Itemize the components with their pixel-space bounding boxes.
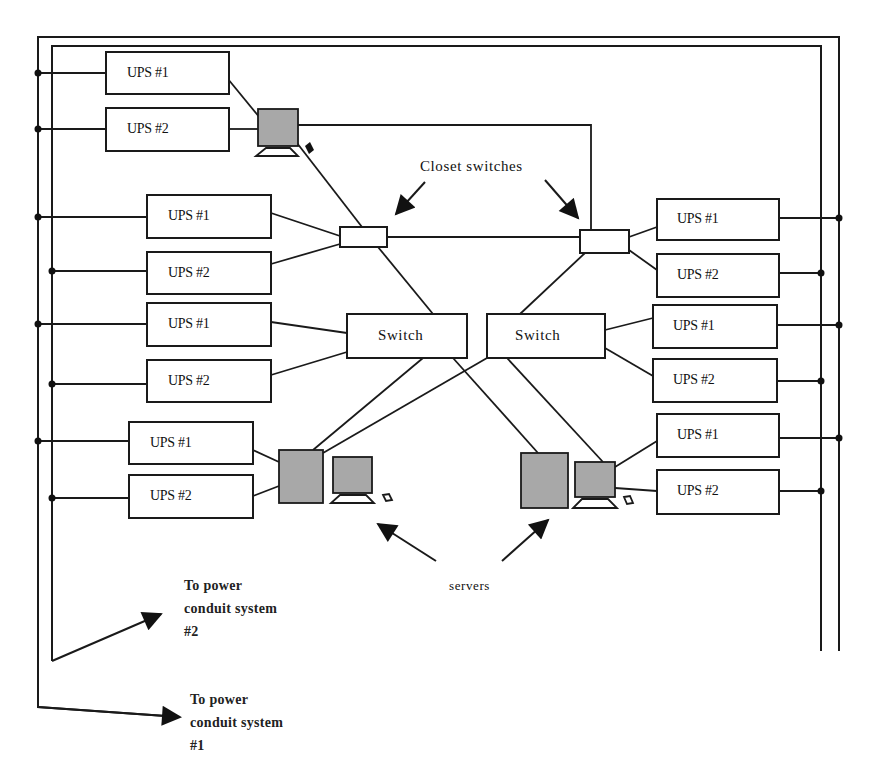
ups-label: UPS #1	[677, 211, 718, 227]
conduit-1-line-3: #1	[190, 734, 283, 757]
closet-switches-label: Closet switches	[420, 158, 523, 175]
right-bus-taps	[777, 215, 843, 495]
conduit-arrow-1	[38, 707, 180, 717]
conduit-arrow-2	[52, 614, 161, 661]
conduit-1-line-2: conduit system	[190, 711, 283, 734]
ups-right-group	[653, 199, 779, 514]
conduit-2-label: To power conduit system #2	[184, 574, 277, 643]
ups-label: UPS #1	[127, 65, 168, 81]
server-tower-icon	[521, 453, 568, 508]
monitor-icon	[333, 457, 372, 493]
server-right-icon	[521, 453, 633, 508]
ups-label: UPS #1	[168, 208, 209, 224]
mouse-icon	[624, 496, 633, 504]
conduit-2-line-2: conduit system	[184, 597, 277, 620]
server-left-icon	[279, 450, 392, 503]
switch-right-label: Switch	[515, 327, 560, 344]
monitor-icon	[575, 462, 615, 497]
ups-label: UPS #2	[127, 121, 168, 137]
workstation-monitor-icon	[256, 109, 314, 156]
ups-label: UPS #2	[168, 373, 209, 389]
servers-arrow-right	[502, 520, 548, 561]
servers-label: servers	[449, 578, 490, 594]
network-power-diagram	[0, 0, 874, 782]
ups-label: UPS #1	[150, 435, 191, 451]
ups-label: UPS #1	[673, 318, 714, 334]
servers-arrow-left	[378, 524, 436, 561]
conduit-2-line-1: To power	[184, 574, 277, 597]
ups-label: UPS #2	[150, 488, 191, 504]
switch-left-label: Switch	[378, 327, 423, 344]
mouse-icon	[383, 494, 392, 501]
ups-label: UPS #1	[168, 316, 209, 332]
conduit-1-line-1: To power	[190, 688, 283, 711]
closet-switch-arrow-left	[396, 182, 425, 214]
server-tower-icon	[279, 450, 323, 503]
closet-switch-arrow-right	[545, 180, 578, 218]
ups-label: UPS #2	[673, 372, 714, 388]
ups-label: UPS #1	[677, 427, 718, 443]
connector-icon	[305, 142, 314, 154]
ups-label: UPS #2	[677, 267, 718, 283]
conduit-2-line-3: #2	[184, 620, 277, 643]
ups-label: UPS #2	[168, 265, 209, 281]
closet-switch-left	[340, 227, 387, 247]
conduit-1-label: To power conduit system #1	[190, 688, 283, 757]
ups-label: UPS #2	[677, 483, 718, 499]
closet-switch-right	[580, 230, 629, 253]
